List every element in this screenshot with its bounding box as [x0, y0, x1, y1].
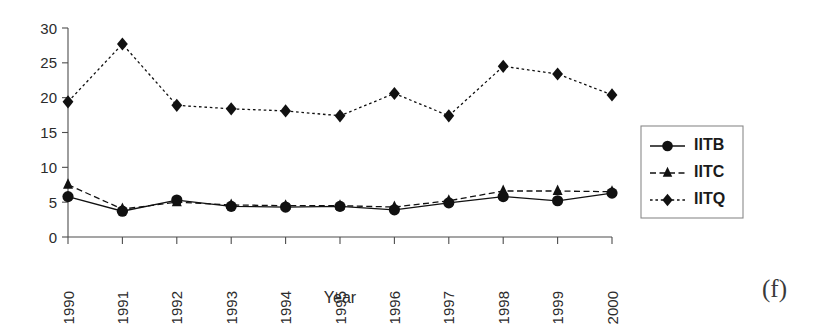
data-point — [607, 88, 618, 101]
y-tick-label: 10 — [40, 159, 57, 176]
data-point — [498, 60, 509, 73]
y-tick-label: 0 — [49, 229, 57, 246]
x-tick-label: 1992 — [168, 291, 185, 324]
series-line-iitq — [68, 44, 612, 116]
figure-panel: 051015202530 199019911992199319941995199… — [0, 0, 818, 327]
x-axis: 1990199119921993199419951996199719981999… — [60, 237, 621, 324]
x-tick-label: 1998 — [495, 291, 512, 324]
data-point — [171, 99, 182, 112]
y-tick-label: 15 — [40, 124, 57, 141]
data-point — [553, 185, 563, 196]
data-point — [62, 191, 73, 202]
x-tick-label: 1994 — [277, 291, 294, 324]
data-point — [63, 178, 73, 189]
legend-circle-marker — [662, 141, 673, 152]
x-axis-title: Year — [324, 289, 357, 306]
data-point — [552, 195, 563, 206]
series-iitq — [63, 37, 618, 122]
y-tick-label: 30 — [40, 20, 57, 37]
data-point — [280, 104, 291, 117]
legend-label-iitc: IITC — [694, 163, 725, 180]
x-tick-label: 1999 — [549, 291, 566, 324]
data-point — [335, 109, 346, 122]
legend-box — [641, 126, 743, 218]
x-tick-label: 1993 — [223, 291, 240, 324]
x-tick-label: 1991 — [114, 291, 131, 324]
y-tick-label: 5 — [49, 194, 57, 211]
y-axis: 051015202530 — [40, 20, 68, 246]
legend-label-iitq: IITQ — [694, 190, 725, 207]
x-tick-label: 1997 — [440, 291, 457, 324]
line-chart: 051015202530 199019911992199319941995199… — [0, 0, 818, 327]
data-point — [552, 67, 563, 80]
plot-series-group — [62, 37, 617, 216]
panel-label: (f) — [762, 275, 787, 303]
series-iitc — [63, 178, 617, 213]
data-point — [389, 87, 400, 100]
chart-legend[interactable]: IITBIITCIITQ — [641, 126, 743, 218]
data-point — [117, 37, 128, 50]
data-point — [226, 102, 237, 115]
data-point — [498, 185, 508, 196]
y-tick-label: 25 — [40, 54, 57, 71]
x-tick-label: 1996 — [386, 291, 403, 324]
x-tick-label: 1990 — [60, 291, 77, 324]
x-tick-label: 2000 — [604, 291, 621, 324]
y-tick-label: 20 — [40, 89, 57, 106]
legend-label-iitb: IITB — [694, 136, 724, 153]
data-point — [443, 109, 454, 122]
